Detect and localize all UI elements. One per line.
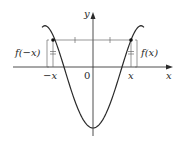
f-x-label: f(x)	[140, 47, 158, 58]
left-bracket	[47, 40, 49, 67]
pos-x-label: x	[128, 70, 134, 81]
y-axis-arrow-icon	[91, 12, 96, 19]
x-axis-arrow-icon	[166, 65, 173, 70]
point-pos-x	[129, 38, 133, 42]
point-neg-x	[51, 38, 55, 42]
neg-x-label: −x	[43, 70, 57, 81]
diagram-canvas: y x 0 −x x f(−x) f(x)	[0, 0, 185, 142]
f-neg-x-label: f(−x)	[14, 47, 41, 58]
right-bracket	[135, 40, 137, 67]
even-function-diagram: y x 0 −x x f(−x) f(x)	[0, 0, 185, 142]
y-axis-label: y	[83, 8, 90, 19]
origin-label: 0	[84, 70, 90, 81]
x-axis-label: x	[166, 70, 172, 81]
